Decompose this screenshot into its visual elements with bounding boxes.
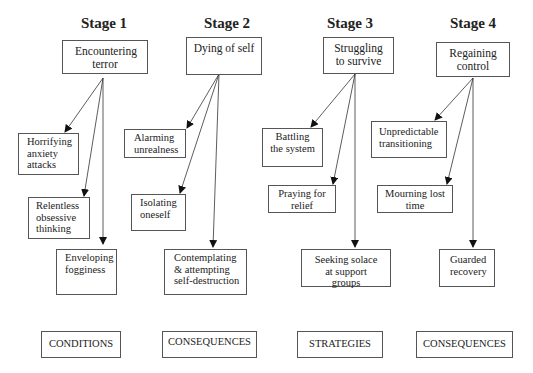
stage-1-child-2: Relentless obsessive thinking bbox=[28, 197, 90, 239]
category-label-stage-1: CONDITIONS bbox=[41, 331, 121, 358]
stage-3-child-1: Battling the system bbox=[262, 128, 323, 167]
stage-2-child-1: Alarming unrealness bbox=[124, 129, 186, 158]
stage-4-main-box: Regaining control bbox=[436, 42, 510, 77]
stage-2-child-2: Isolating oneself bbox=[131, 194, 186, 231]
stage-2-child-3: Contemplating & attempting self-destruct… bbox=[164, 249, 247, 295]
stage-1-child-3: Enveloping fogginess bbox=[56, 249, 117, 295]
stage-3-child-3: Seeking solace at support groups bbox=[301, 249, 391, 287]
stage-1-main-box: Encountering terror bbox=[62, 40, 148, 74]
stage-3-main-box: Struggling to survive bbox=[323, 37, 394, 74]
stage-2-title: Stage 2 bbox=[204, 15, 250, 32]
stage-4-child-3: Guarded recovery bbox=[439, 249, 495, 287]
category-label-stage-4: CONSEQUENCES bbox=[416, 331, 513, 358]
category-label-stage-2: CONSEQUENCES bbox=[162, 331, 257, 358]
stage-1-child-1: Horrifying anxiety attacks bbox=[18, 133, 79, 175]
stage-4-title: Stage 4 bbox=[450, 15, 496, 32]
stage-4-child-2: Mourning lost time bbox=[377, 185, 453, 213]
stage-3-child-2: Praying for relief bbox=[268, 185, 336, 213]
stage-2-main-box: Dying of self bbox=[186, 37, 262, 75]
category-label-stage-3: STRATEGIES bbox=[297, 331, 383, 358]
stage-3-title: Stage 3 bbox=[327, 15, 373, 32]
stage-1-title: Stage 1 bbox=[81, 15, 127, 32]
stage-4-child-1: Unpredictable transitioning bbox=[371, 121, 447, 158]
